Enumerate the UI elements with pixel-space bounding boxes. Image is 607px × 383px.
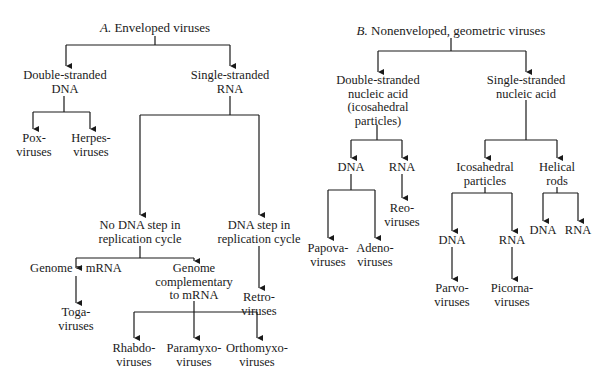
node-a-rhabdoviruses: Rhabdo- viruses — [112, 342, 155, 369]
node-label-line: to mRNA — [155, 289, 233, 303]
node-label-line: replication cycle — [218, 233, 301, 247]
node-label-line: viruses — [112, 356, 155, 370]
node-label-line: particles) — [336, 115, 419, 129]
node-label-line: RNA — [565, 224, 591, 238]
node-label-line: viruses — [16, 146, 51, 160]
node-label-line: Genome — [155, 262, 233, 276]
node-label-line: viruses — [71, 146, 111, 160]
node-a-orthomyxoviruses: Orthomyxo- viruses — [226, 342, 288, 369]
node-label-line: No DNA step in — [99, 219, 182, 233]
node-label-line: DNA — [529, 224, 556, 238]
node-a-genome-mrna: Genome = mRNA — [30, 262, 122, 276]
node-label-line: viruses — [308, 256, 349, 270]
node-label-line: viruses — [167, 356, 222, 370]
node-label-line: Parvo- — [434, 282, 469, 296]
node-a-no-dna-step: No DNA step in replication cycle — [99, 219, 182, 246]
node-label-line: Genome = mRNA — [30, 262, 122, 276]
node-label-line: Orthomyxo- — [226, 342, 288, 356]
node-label-line: viruses — [226, 356, 288, 370]
node-label-line: Papova- — [308, 242, 349, 256]
node-b-ds-dna: DNA — [337, 161, 364, 175]
node-label-line: Toga- — [58, 306, 93, 320]
node-b-single-stranded-nucleic-acid: Single-stranded nucleic acid — [487, 74, 565, 101]
node-label-line: Helical — [539, 161, 575, 175]
tree-b-title-text: Nonenveloped, geometric viruses — [368, 23, 546, 38]
node-a-herpesviruses: Herpes- viruses — [71, 132, 111, 159]
node-label-line: viruses — [384, 216, 419, 230]
node-label-line: Paramyxo- — [167, 342, 222, 356]
node-b-helical-rna: RNA — [565, 224, 591, 238]
node-label-line: viruses — [491, 296, 533, 310]
node-label-line: nucleic acid — [336, 88, 419, 102]
tree-b-letter: B. — [357, 23, 368, 38]
node-a-togaviruses: Toga- viruses — [58, 306, 93, 333]
node-b-double-stranded-nucleic-acid: Double-stranded nucleic acid (icosahedra… — [336, 74, 419, 128]
node-b-papovaviruses: Papova- viruses — [308, 242, 349, 269]
node-label-line: Retro- — [241, 291, 276, 305]
node-label-line: nucleic acid — [487, 88, 565, 102]
node-label-line: DNA step in — [218, 219, 301, 233]
tree-a-letter: A. — [100, 20, 111, 35]
tree-a-title-text: Enveloped viruses — [111, 20, 210, 35]
node-label-line: complementary — [155, 276, 233, 290]
node-label-line: viruses — [241, 305, 276, 319]
node-label-line: Reo- — [384, 202, 419, 216]
node-label-line: viruses — [434, 296, 469, 310]
node-label-line: Icosahedral — [456, 161, 514, 175]
node-b-icos-dna: DNA — [438, 234, 465, 248]
node-label-line: rods — [539, 175, 575, 189]
node-b-parvoviruses: Parvo- viruses — [434, 282, 469, 309]
node-label-line: DNA — [337, 161, 364, 175]
node-a-paramyxoviruses: Paramyxo- viruses — [167, 342, 222, 369]
node-label-line: Single-stranded — [191, 69, 269, 83]
node-b-reoviruses: Reo- viruses — [384, 202, 419, 229]
node-label-line: Picorna- — [491, 282, 533, 296]
node-label-line: RNA — [499, 234, 525, 248]
tree-b-title: B. Nonenveloped, geometric viruses — [357, 24, 546, 38]
node-label-line: viruses — [356, 256, 394, 270]
node-label-line: particles — [456, 175, 514, 189]
node-label-line: DNA — [438, 234, 465, 248]
node-label-line: replication cycle — [99, 233, 182, 247]
tree-a-title: A. Enveloped viruses — [100, 21, 210, 35]
node-label-line: Adeno- — [356, 242, 394, 256]
node-label-line: RNA — [191, 83, 269, 97]
node-label-line: (icosahedral — [336, 101, 419, 115]
node-label-line: Pox- — [16, 132, 51, 146]
node-b-helical-rods: Helical rods — [539, 161, 575, 188]
node-b-ds-rna: RNA — [389, 161, 415, 175]
node-a-single-stranded-rna: Single-stranded RNA — [191, 69, 269, 96]
node-label-line: viruses — [58, 320, 93, 334]
node-a-retroviruses: Retro- viruses — [241, 291, 276, 318]
node-label-line: Double-stranded — [336, 74, 419, 88]
node-a-double-stranded-dna: Double-stranded DNA — [23, 69, 106, 96]
node-b-helical-dna: DNA — [529, 224, 556, 238]
node-a-dna-step: DNA step in replication cycle — [218, 219, 301, 246]
node-b-icos-rna: RNA — [499, 234, 525, 248]
node-label-line: DNA — [23, 83, 106, 97]
node-b-adenoviruses: Adeno- viruses — [356, 242, 394, 269]
node-label-line: RNA — [389, 161, 415, 175]
node-label-line: Herpes- — [71, 132, 111, 146]
node-a-poxviruses: Pox- viruses — [16, 132, 51, 159]
node-label-line: Double-stranded — [23, 69, 106, 83]
node-label-line: Rhabdo- — [112, 342, 155, 356]
node-b-icosahedral-particles: Icosahedral particles — [456, 161, 514, 188]
node-b-picornaviruses: Picorna- viruses — [491, 282, 533, 309]
node-a-genome-complementary: Genome complementary to mRNA — [155, 262, 233, 303]
node-label-line: Single-stranded — [487, 74, 565, 88]
